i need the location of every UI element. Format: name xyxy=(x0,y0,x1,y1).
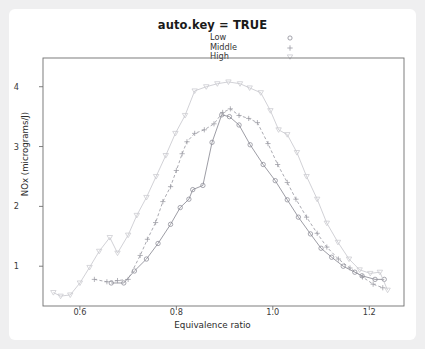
series-line-low xyxy=(111,115,384,283)
plus-icon xyxy=(160,199,165,204)
data-point-plus xyxy=(304,215,309,220)
y-tick-label: 1 xyxy=(0,261,19,271)
series-low xyxy=(109,113,386,286)
data-point-plus xyxy=(145,237,150,242)
y-tick-label: 3 xyxy=(0,142,19,152)
data-point-plus xyxy=(275,162,280,167)
x-tick-label: 1.2 xyxy=(354,307,384,317)
plus-icon xyxy=(315,231,320,236)
plot-area: NOx (micrograms/J) Equivalence ratio 123… xyxy=(9,9,416,340)
data-point-plus xyxy=(115,278,120,283)
series-middle xyxy=(92,106,386,290)
series-line-high xyxy=(53,82,387,296)
data-point-plus xyxy=(228,106,233,111)
plus-icon xyxy=(285,180,290,185)
chart-screenshot: auto.key = TRUE Low Middle High xyxy=(0,0,425,349)
plot-svg xyxy=(9,9,416,340)
data-point-plus xyxy=(202,127,207,132)
plus-icon xyxy=(246,116,251,121)
data-point-plus xyxy=(174,168,179,173)
x-tick-label: 1.0 xyxy=(258,307,288,317)
plus-icon xyxy=(184,139,189,144)
data-point-plus xyxy=(138,253,143,258)
data-point-plus xyxy=(255,120,260,125)
plus-icon xyxy=(255,120,260,125)
plus-icon xyxy=(293,197,298,202)
plus-icon xyxy=(265,141,270,146)
plus-icon xyxy=(153,220,158,225)
plus-icon xyxy=(371,282,376,287)
plus-icon xyxy=(145,237,150,242)
plus-icon xyxy=(168,184,173,189)
chart-panel: auto.key = TRUE Low Middle High xyxy=(9,9,416,340)
data-point-plus xyxy=(246,116,251,121)
series-line-middle xyxy=(94,109,382,288)
data-point-plus xyxy=(380,285,385,290)
plus-icon xyxy=(104,279,109,284)
y-tick-label: 2 xyxy=(0,201,19,211)
y-axis-label: NOx (micrograms/J) xyxy=(20,94,30,214)
data-point-plus xyxy=(168,184,173,189)
data-point-plus xyxy=(236,113,241,118)
data-point-plus xyxy=(126,277,131,282)
plus-icon xyxy=(180,151,185,156)
x-tick-label: 0.6 xyxy=(65,307,95,317)
plus-icon xyxy=(115,278,120,283)
triangle-down-icon xyxy=(385,288,390,293)
plus-icon xyxy=(202,127,207,132)
data-point-plus xyxy=(92,277,97,282)
plus-icon xyxy=(304,215,309,220)
data-point-plus xyxy=(180,151,185,156)
data-point-plus xyxy=(104,279,109,284)
plus-icon xyxy=(380,285,385,290)
plus-icon xyxy=(92,277,97,282)
data-point-plus xyxy=(285,180,290,185)
plus-icon xyxy=(275,162,280,167)
plus-icon xyxy=(324,244,329,249)
data-point-plus xyxy=(371,282,376,287)
data-point-plus xyxy=(184,139,189,144)
data-point-plus xyxy=(315,231,320,236)
plus-icon xyxy=(236,113,241,118)
y-tick-label: 4 xyxy=(0,82,19,92)
data-point-plus xyxy=(324,244,329,249)
data-point-inverted-triangle xyxy=(385,288,390,293)
x-axis-label: Equivalence ratio xyxy=(9,320,416,330)
plus-icon xyxy=(174,168,179,173)
plus-icon xyxy=(138,253,143,258)
data-point-plus xyxy=(293,197,298,202)
x-tick-label: 0.8 xyxy=(161,307,191,317)
data-point-plus xyxy=(160,199,165,204)
plus-icon xyxy=(126,277,131,282)
data-point-plus xyxy=(265,141,270,146)
plus-icon xyxy=(228,106,233,111)
data-point-plus xyxy=(153,220,158,225)
